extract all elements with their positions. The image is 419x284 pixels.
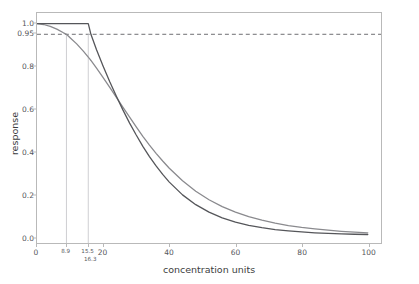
y-tick-mark [33, 151, 36, 152]
y-tick-label: 0.0 [0, 233, 34, 242]
x-tick-label: 8.9 [61, 248, 70, 254]
plot-canvas [37, 13, 381, 243]
y-tick-mark [33, 22, 36, 23]
x-tick-mark [236, 244, 237, 247]
x-tick-mark [66, 244, 67, 247]
y-tick-mark [33, 33, 36, 34]
y-tick-label: 0.8 [0, 61, 34, 70]
x-tick-mark [169, 244, 170, 247]
dose-response-chart: 0.00.20.40.60.80.951.0 08.915.516.320406… [0, 0, 419, 284]
y-tick-mark [33, 194, 36, 195]
y-tick-mark [33, 108, 36, 109]
x-tick-label: 80 [297, 248, 307, 257]
plot-area [36, 12, 382, 244]
x-tick-label: 16.3 [84, 256, 96, 262]
x-tick-label: 40 [164, 248, 174, 257]
y-tick-mark [33, 237, 36, 238]
y-tick-label: 0.95 [0, 29, 34, 38]
x-tick-mark [369, 244, 370, 247]
x-tick-mark [88, 244, 89, 247]
y-tick-mark [33, 65, 36, 66]
y-axis-label: response [9, 74, 20, 194]
series-smooth-response [37, 24, 368, 233]
x-tick-mark [36, 244, 37, 247]
y-tick-label: 1.0 [0, 18, 34, 27]
x-tick-label: 15.5 [81, 248, 93, 254]
x-axis-label: concentration units [36, 264, 382, 275]
x-tick-label: 20 [98, 248, 108, 257]
x-tick-label: 60 [231, 248, 241, 257]
x-tick-label: 100 [362, 248, 376, 257]
x-tick-label: 0 [34, 248, 39, 257]
x-tick-mark [103, 244, 104, 247]
x-tick-mark [302, 244, 303, 247]
